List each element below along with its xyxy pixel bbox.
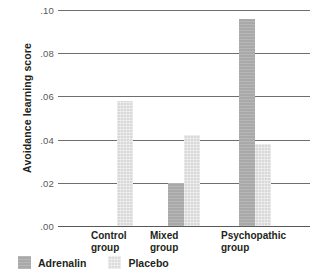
gridline-10: .10: [58, 10, 310, 11]
x-category-label-line: group: [150, 242, 178, 254]
x-category-label-line: group: [221, 242, 286, 254]
y-tick-label: .06: [40, 91, 54, 102]
x-category-label-psychopathic: Psychopathicgroup: [221, 230, 286, 253]
chart-legend: Adrenalin Placebo: [18, 256, 169, 269]
legend-entry-adrenalin: Adrenalin: [18, 256, 86, 269]
y-tick-label: .00: [40, 221, 54, 232]
y-tick-label: .08: [40, 48, 54, 59]
legend-entry-placebo: Placebo: [108, 256, 168, 269]
legend-label-adrenalin: Adrenalin: [38, 257, 86, 269]
plot-area: .00.02.04.06.08.10: [58, 10, 310, 226]
bar-chart-figure: Avoidance learning score .00.02.04.06.08…: [0, 0, 315, 279]
x-category-label-line: Control: [91, 230, 127, 242]
gridline-00: .00: [58, 226, 310, 227]
gridline-06: .06: [58, 96, 310, 97]
y-tick-label: .10: [40, 5, 54, 16]
x-category-label-line: group: [91, 242, 127, 254]
y-axis-title: Avoidance learning score: [21, 18, 33, 198]
legend-swatch-adrenalin-icon: [18, 256, 31, 269]
legend-swatch-placebo-icon: [108, 256, 121, 269]
x-category-label-line: Psychopathic: [221, 230, 286, 242]
gridline-08: .08: [58, 53, 310, 54]
bar-adrenalin-mixed: [168, 183, 184, 226]
x-category-label-line: Mixed: [150, 230, 178, 242]
bar-placebo-control: [117, 101, 133, 226]
x-category-label-mixed: Mixedgroup: [150, 230, 178, 253]
bar-placebo-psychopathic: [255, 144, 271, 226]
y-tick-label: .04: [40, 134, 54, 145]
x-category-label-control: Controlgroup: [91, 230, 127, 253]
bar-placebo-mixed: [184, 135, 200, 226]
legend-label-placebo: Placebo: [128, 257, 168, 269]
y-tick-label: .02: [40, 177, 54, 188]
bar-adrenalin-psychopathic: [239, 19, 255, 226]
